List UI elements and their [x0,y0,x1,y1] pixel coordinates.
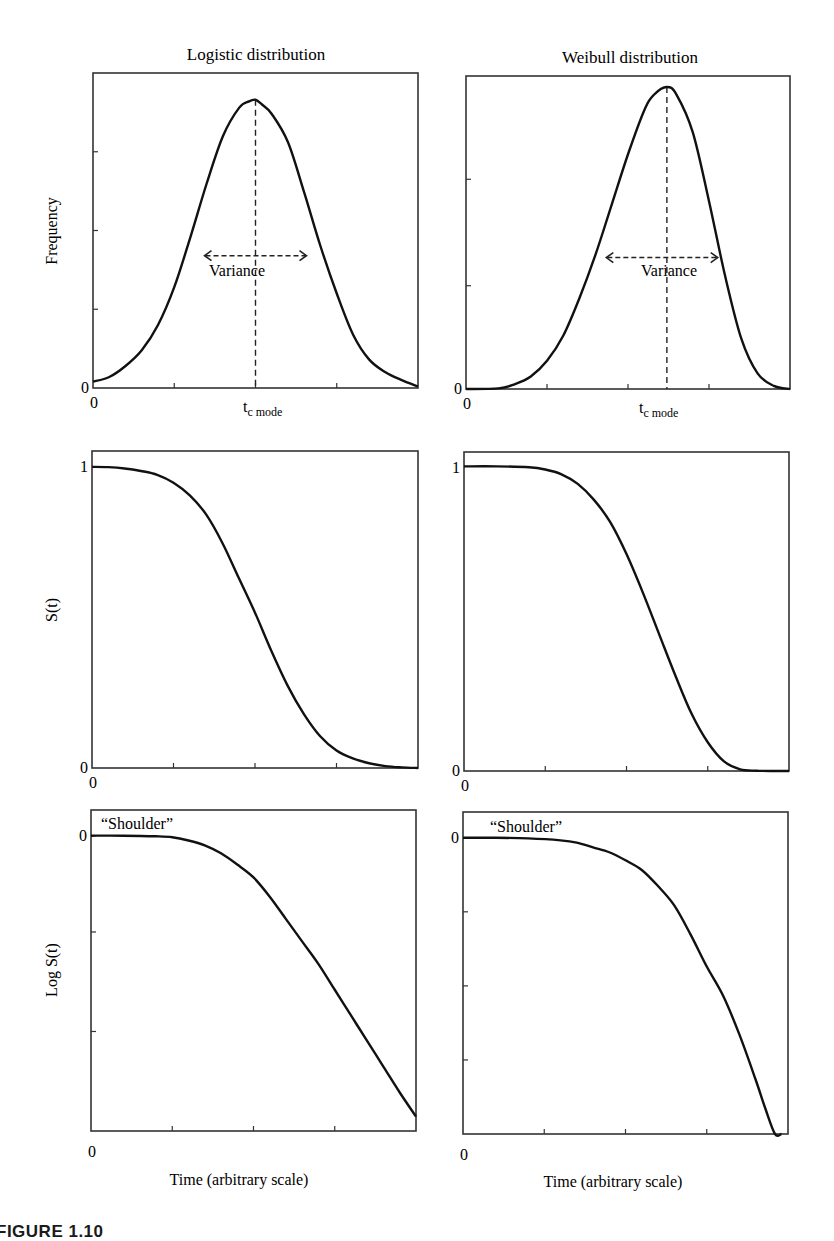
data-curve [464,466,789,771]
xlabel-time-right: Time (arbitrary scale) [544,1173,683,1191]
variance-label-weibull: Variance [641,262,697,279]
panel-weibull-frequency: 00 [454,76,790,412]
data-curve [92,467,418,768]
ylabel-frequency: Frequency [43,197,61,265]
x-tick-label: 0 [90,394,98,411]
mode-label-weibull: tc mode [639,399,678,420]
y-tick-label: 0 [81,379,89,396]
x-tick-label: 0 [89,774,97,791]
ylabel-survival: S(t) [43,598,61,622]
y-tick-label: 0 [452,762,460,779]
variance-label-logistic: Variance [209,262,265,279]
y-tick-label: 0 [454,380,462,397]
shoulder-label-logistic: “Shoulder” [101,815,173,832]
panel-weibull-log-survival: 00 [451,812,788,1163]
x-tick-label: 0 [463,395,471,412]
data-curve [91,836,416,1117]
y-tick-label: 1 [452,459,460,476]
y-tick-label: 0 [79,827,87,844]
panel-weibull-survival: 010 [452,452,789,794]
ylabel-log-survival: Log S(t) [43,943,61,997]
y-tick-label: 1 [80,458,88,475]
panel-logistic-log-survival: 00 [79,810,416,1160]
xlabel-time-left: Time (arbitrary scale) [170,1171,309,1189]
figure-caption: FIGURE 1.10 [0,1222,104,1241]
y-tick-label: 0 [451,829,459,846]
mode-label-logistic: tc mode [243,398,282,419]
shoulder-label-weibull: “Shoulder” [490,818,562,835]
panel-logistic-frequency: 00 [81,73,418,411]
data-curve [466,87,790,389]
plot-frame [464,452,789,771]
x-tick-label: 0 [88,1143,96,1160]
y-tick-label: 0 [80,759,88,776]
data-curve [463,838,782,1136]
x-tick-label: 0 [461,777,469,794]
plot-frame [92,451,418,768]
x-tick-label: 0 [460,1146,468,1163]
column-title-logistic: Logistic distribution [187,45,326,64]
panel-logistic-survival: 010 [80,451,418,791]
plot-frame [91,810,416,1131]
column-title-weibull: Weibull distribution [562,48,699,67]
